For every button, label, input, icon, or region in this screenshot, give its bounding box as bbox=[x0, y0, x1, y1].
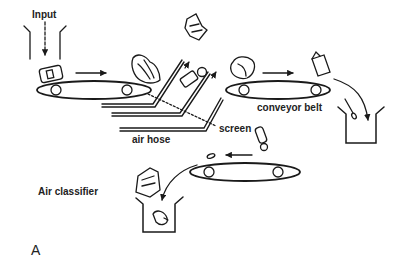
air-hose-label: air hose bbox=[132, 134, 170, 145]
cabbage-item-icon bbox=[231, 57, 255, 79]
bulb-item-icon bbox=[198, 68, 207, 77]
carton-item-icon bbox=[312, 52, 330, 76]
air-hoses bbox=[102, 60, 223, 131]
spoon-item-icon bbox=[345, 99, 357, 120]
collection-bin-bottom bbox=[136, 197, 183, 232]
screen-line bbox=[148, 94, 216, 126]
bottle-item-icon bbox=[255, 126, 268, 150]
paper-bag-item-icon bbox=[185, 14, 207, 40]
can-item-icon bbox=[180, 70, 199, 87]
input-label: Input bbox=[32, 9, 56, 20]
input-hopper bbox=[24, 22, 66, 59]
conveyor-belt-2 bbox=[226, 73, 330, 99]
clip-item-icon bbox=[207, 153, 216, 159]
collection-bin-right bbox=[338, 107, 384, 143]
conveyor-belt-label: conveyor belt bbox=[257, 102, 322, 113]
panel-label: A bbox=[31, 242, 40, 258]
jar-item-icon bbox=[39, 65, 63, 83]
screen-label: screen bbox=[219, 123, 251, 134]
recycling-sorting-diagram bbox=[0, 0, 403, 268]
paper-pile-icon bbox=[132, 55, 160, 83]
air-classifier-label: Air classifier bbox=[38, 186, 98, 197]
detergent-bottle-item-icon bbox=[136, 168, 160, 197]
conveyor-belt-3 bbox=[190, 155, 300, 181]
handle-jug-item-icon bbox=[153, 211, 168, 224]
